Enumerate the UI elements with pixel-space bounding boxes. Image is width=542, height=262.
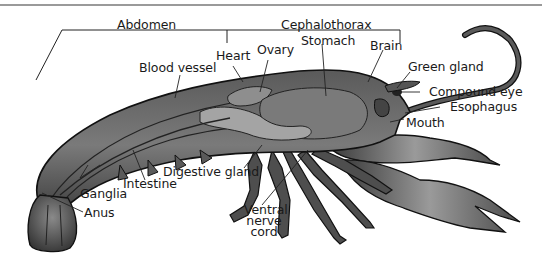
label-esophagus: Esophagus <box>450 101 517 114</box>
label-brain: Brain <box>370 40 402 53</box>
rostrum <box>385 81 420 92</box>
label-cephalothorax: Cephalothorax <box>281 19 371 32</box>
label-stomach: Stomach <box>301 35 355 48</box>
label-mouth: Mouth <box>406 117 445 130</box>
label-ganglia: Ganglia <box>80 188 127 201</box>
label-compound-eye: Compound eye <box>429 86 522 99</box>
label-anus: Anus <box>84 207 115 220</box>
label-ovary: Ovary <box>257 44 294 57</box>
label-green-gland: Green gland <box>408 61 484 74</box>
label-ventral-nerve-cord: Ventral nerve cord <box>244 204 284 237</box>
label-digestive-gland: Digestive gland <box>163 166 259 179</box>
label-blood-vessel: Blood vessel <box>139 62 216 75</box>
label-abdomen: Abdomen <box>117 19 176 32</box>
label-intestine: Intestine <box>123 178 177 191</box>
brain-shape <box>374 99 389 117</box>
tail-fan <box>28 195 76 252</box>
label-heart: Heart <box>216 50 250 63</box>
